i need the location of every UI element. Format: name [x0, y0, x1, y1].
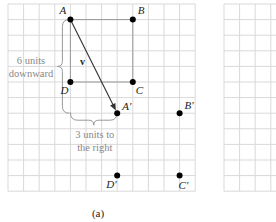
- point-label-a1: A′: [121, 100, 132, 112]
- vector-label: v: [80, 56, 85, 67]
- point-b: [130, 17, 136, 23]
- point-label-d: D: [59, 84, 68, 96]
- point-a1: [114, 110, 120, 116]
- brace-horizontal: [70, 112, 117, 125]
- point-label-a: A: [58, 4, 66, 16]
- brace-vertical-text-1: 6 units: [17, 55, 45, 66]
- point-label-c: C: [136, 84, 144, 96]
- brace-horizontal-text-2: the right: [77, 142, 112, 153]
- translation-diagram: v 6 units downward 3 units to the right …: [0, 0, 276, 222]
- point-label-b: B: [138, 4, 145, 16]
- point-label-b1: B′: [185, 99, 195, 111]
- point-label-c1: C′: [179, 179, 189, 191]
- point-b1: [177, 110, 183, 116]
- brace-vertical-text-2: downward: [9, 68, 54, 79]
- brace-horizontal-text-1: 3 units to: [75, 129, 114, 140]
- vector-v: [70, 20, 113, 106]
- figure-caption: (a): [92, 207, 105, 220]
- grid-right: [224, 4, 276, 191]
- grid-left: [8, 4, 195, 191]
- point-label-d1: D′: [105, 178, 117, 190]
- point-a: [67, 17, 73, 23]
